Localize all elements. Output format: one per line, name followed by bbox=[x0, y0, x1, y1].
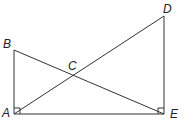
label-b: B bbox=[3, 37, 11, 51]
label-c: C bbox=[68, 59, 77, 73]
geometry-diagram: B A C D E bbox=[0, 0, 186, 126]
label-d: D bbox=[163, 2, 172, 16]
segment-be bbox=[14, 50, 164, 114]
label-e: E bbox=[170, 107, 179, 121]
label-a: A bbox=[1, 106, 10, 120]
segment-ad bbox=[14, 16, 164, 114]
